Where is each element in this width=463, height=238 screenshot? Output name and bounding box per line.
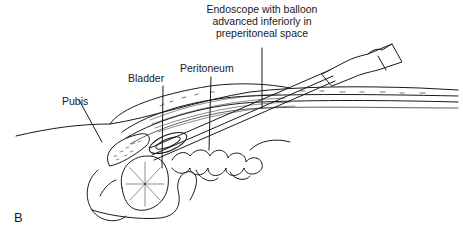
peritoneum-label: Peritoneum: [180, 62, 234, 74]
bowel-loops: [172, 150, 262, 176]
pubis-label: Pubis: [62, 95, 88, 107]
pubis-bone: [107, 134, 149, 166]
bladder-label: Bladder: [128, 72, 164, 84]
endoscope-label: Endoscope with balloon advanced inferior…: [196, 3, 328, 39]
endoscope-handle: [322, 44, 402, 86]
peritoneum-leader: [209, 77, 211, 150]
panel-label: B: [14, 210, 23, 225]
